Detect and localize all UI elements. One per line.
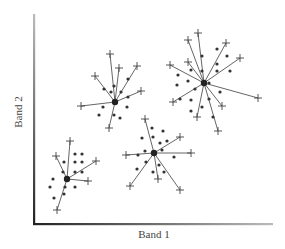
data-point bbox=[211, 115, 214, 118]
cluster-d bbox=[48, 137, 100, 214]
data-point bbox=[207, 81, 210, 84]
spoke-line bbox=[67, 161, 96, 179]
data-point bbox=[151, 135, 154, 138]
data-point bbox=[165, 139, 168, 142]
cross-marker bbox=[115, 64, 123, 72]
cross-marker bbox=[194, 29, 202, 37]
data-point bbox=[135, 167, 138, 170]
data-point bbox=[140, 136, 143, 139]
data-point bbox=[101, 105, 104, 108]
spoke-line bbox=[204, 83, 218, 131]
data-point bbox=[200, 105, 203, 108]
spoke-line bbox=[56, 156, 67, 179]
data-point bbox=[73, 152, 76, 155]
spoke-line bbox=[110, 54, 115, 102]
spoke-line bbox=[204, 83, 258, 98]
spoke-line bbox=[197, 83, 204, 117]
data-point bbox=[176, 73, 179, 76]
data-point bbox=[157, 163, 160, 166]
data-point bbox=[172, 155, 175, 158]
data-point bbox=[186, 79, 189, 82]
data-point bbox=[112, 84, 115, 87]
y-axis bbox=[33, 14, 35, 225]
cross-marker bbox=[53, 206, 61, 214]
cross-marker bbox=[236, 54, 244, 62]
cross-marker bbox=[254, 94, 262, 102]
data-point bbox=[189, 68, 192, 71]
spoke-line bbox=[81, 102, 115, 106]
spoke-line bbox=[67, 141, 70, 179]
data-point bbox=[61, 170, 64, 173]
centroid-marker bbox=[112, 99, 118, 105]
centroid-marker bbox=[201, 80, 207, 86]
data-point bbox=[193, 87, 196, 90]
data-point bbox=[215, 69, 218, 72]
cross-marker bbox=[92, 157, 100, 165]
cross-marker bbox=[176, 186, 184, 194]
x-axis bbox=[33, 223, 273, 225]
data-point bbox=[109, 90, 112, 93]
data-point bbox=[161, 129, 164, 132]
data-point bbox=[207, 97, 210, 100]
data-point bbox=[160, 148, 163, 151]
spoke-line bbox=[154, 153, 158, 179]
data-point bbox=[80, 152, 83, 155]
cross-marker bbox=[141, 115, 149, 123]
cross-marker bbox=[154, 175, 162, 183]
cross-marker bbox=[91, 72, 99, 80]
data-point bbox=[151, 170, 154, 173]
data-point bbox=[215, 62, 218, 65]
cross-marker bbox=[105, 124, 113, 132]
data-point bbox=[48, 185, 51, 188]
cluster-c bbox=[122, 115, 195, 194]
data-point bbox=[189, 109, 192, 112]
data-point bbox=[126, 77, 129, 80]
spoke-line bbox=[126, 153, 154, 155]
data-point bbox=[119, 90, 122, 93]
data-point bbox=[228, 69, 231, 72]
data-point bbox=[136, 153, 139, 156]
data-point bbox=[126, 95, 129, 98]
data-point bbox=[189, 98, 192, 101]
centroid-marker bbox=[151, 150, 157, 156]
cross-marker bbox=[184, 36, 192, 44]
data-point bbox=[73, 160, 76, 163]
cluster-a bbox=[77, 50, 145, 132]
data-point bbox=[63, 185, 66, 188]
data-point bbox=[150, 126, 153, 129]
cross-marker bbox=[218, 102, 226, 110]
cross-marker bbox=[106, 50, 114, 58]
cross-marker bbox=[222, 39, 230, 47]
data-point bbox=[125, 105, 128, 108]
data-point bbox=[200, 69, 203, 72]
x-axis-label: Band 1 bbox=[138, 228, 169, 240]
data-point bbox=[80, 170, 83, 173]
data-point bbox=[225, 54, 228, 57]
cluster-b bbox=[166, 29, 262, 135]
spoke-line bbox=[130, 153, 154, 186]
cross-marker bbox=[184, 58, 192, 66]
data-point bbox=[73, 185, 76, 188]
data-point bbox=[73, 170, 76, 173]
data-point bbox=[215, 47, 218, 50]
cross-marker bbox=[52, 152, 60, 160]
data-point bbox=[62, 192, 65, 195]
data-point bbox=[158, 141, 161, 144]
cluster-diagram: Band 1 Band 2 bbox=[0, 0, 285, 249]
data-point bbox=[51, 177, 54, 180]
cross-marker bbox=[176, 133, 184, 141]
data-point bbox=[200, 54, 203, 57]
cross-marker bbox=[126, 182, 134, 190]
spoke-line bbox=[204, 58, 240, 83]
data-point bbox=[144, 160, 147, 163]
cross-marker bbox=[66, 137, 74, 145]
cross-marker bbox=[193, 113, 201, 121]
cross-marker bbox=[137, 87, 145, 95]
centroid-marker bbox=[64, 176, 70, 182]
cross-marker bbox=[77, 102, 85, 110]
data-point bbox=[178, 97, 181, 100]
spoke-line bbox=[204, 83, 222, 106]
data-point bbox=[218, 90, 221, 93]
data-point bbox=[80, 160, 83, 163]
cross-marker bbox=[122, 151, 130, 159]
